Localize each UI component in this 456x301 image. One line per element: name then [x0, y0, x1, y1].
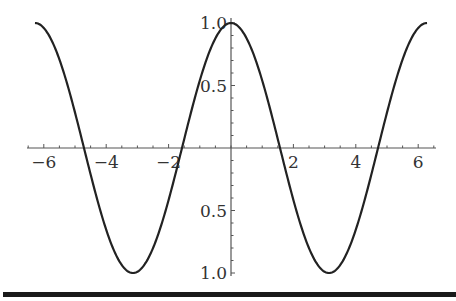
y-tick-label: 1.0 — [200, 13, 227, 33]
y-tick-label: 0.5 — [200, 76, 227, 96]
x-tick-label: 4 — [350, 152, 361, 172]
x-tick-label: 2 — [288, 152, 299, 172]
x-tick-label: −6 — [31, 152, 56, 172]
bottom-rule — [3, 292, 456, 297]
x-tick-label: −4 — [94, 152, 119, 172]
y-tick-label: 0.5 — [200, 201, 227, 221]
y-tick-label: 1.0 — [200, 263, 227, 283]
cosine-chart: −6−4−22461.00.50.51.0 — [0, 0, 456, 301]
x-tick-label: 6 — [413, 152, 424, 172]
